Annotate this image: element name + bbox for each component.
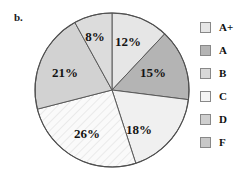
pie-slice-label-c: 26% xyxy=(74,126,100,141)
pie-slice-label-f: 8% xyxy=(85,29,105,44)
pie-slice-label-a: 15% xyxy=(140,65,166,80)
legend-swatch-aplus xyxy=(200,22,211,33)
pie-slice-label-d: 21% xyxy=(52,65,78,80)
panel-label: b. xyxy=(14,12,23,23)
legend-swatch-a xyxy=(200,45,211,56)
pie-slice-label-aplus: 12% xyxy=(115,34,141,49)
legend-item-aplus[interactable]: A+ xyxy=(200,16,250,39)
pie-chart-svg: 12%15%18%26%21%8% xyxy=(33,11,191,169)
legend-item-b[interactable]: B xyxy=(200,62,250,85)
legend-label-f: F xyxy=(219,137,226,148)
legend-label-aplus: A+ xyxy=(219,22,233,33)
legend-label-c: C xyxy=(219,91,227,102)
legend-item-c[interactable]: C xyxy=(200,85,250,108)
pie-chart: 12%15%18%26%21%8% xyxy=(33,11,191,169)
pie-slice-group xyxy=(35,13,189,167)
pie-chart-figure: b. 12%15%18%26%21%8% A+ABCDF xyxy=(0,0,251,179)
chart-legend: A+ABCDF xyxy=(200,16,250,154)
legend-swatch-f xyxy=(200,137,211,148)
legend-swatch-d xyxy=(200,114,211,125)
legend-label-b: B xyxy=(219,68,226,79)
legend-label-d: D xyxy=(219,114,227,125)
legend-item-f[interactable]: F xyxy=(200,131,250,154)
pie-slice-label-b: 18% xyxy=(126,122,152,137)
legend-swatch-c xyxy=(200,91,211,102)
legend-label-a: A xyxy=(219,45,227,56)
legend-item-a[interactable]: A xyxy=(200,39,250,62)
legend-swatch-b xyxy=(200,68,211,79)
legend-item-d[interactable]: D xyxy=(200,108,250,131)
